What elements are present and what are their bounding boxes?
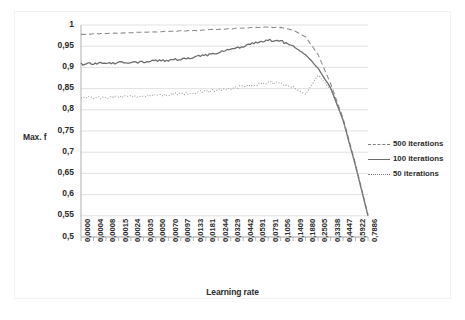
x-tick-label: 0,0244 (221, 219, 230, 242)
y-tick-label: 0,9 (28, 61, 74, 71)
x-tick-label: 0,0791 (271, 219, 280, 242)
x-tick-label: 0,0035 (146, 219, 155, 242)
x-tick-label: 0,5922 (358, 219, 367, 242)
series-line-100-iterations (81, 39, 368, 216)
legend-item-label: 50 iterations (393, 169, 439, 178)
legend-line-icon (368, 170, 390, 178)
series-line-500-iterations (81, 27, 368, 215)
chart-legend: 500 iterations100 iterations50 iteration… (368, 136, 443, 181)
x-tick-label: 0,0442 (246, 219, 255, 242)
x-tick-label: 0,1056 (283, 219, 292, 242)
x-tick-label: 0,0000 (83, 219, 92, 242)
x-tick-label: 0,0008 (108, 219, 117, 242)
x-tick-label: 0,1409 (296, 219, 305, 242)
x-tick-label: 0,0097 (183, 219, 192, 242)
legend-line-icon (368, 155, 390, 163)
x-tick-label: 0,2505 (320, 219, 329, 242)
x-tick-label: 0,0591 (258, 219, 267, 242)
y-tick-label: 0,5 (28, 231, 74, 241)
x-tick-label: 0,0070 (171, 219, 180, 242)
y-tick-label: 0,85 (28, 82, 74, 92)
y-tick-label: 0,75 (28, 125, 74, 135)
x-tick-label: 0,0181 (208, 219, 217, 242)
y-tick-label: 1 (28, 19, 74, 29)
x-tick-label: 0,4447 (345, 219, 354, 242)
x-tick-label: 0,1880 (308, 219, 317, 242)
series-line-50-iterations (81, 75, 368, 216)
y-tick-label: 0,6 (28, 188, 74, 198)
y-tick-label: 0,65 (28, 167, 74, 177)
x-tick-label: 0,0050 (158, 219, 167, 242)
y-tick-label: 0,8 (28, 103, 74, 113)
x-axis-title: Learning rate (0, 287, 465, 297)
legend-item-label: 100 iterations (393, 154, 443, 163)
x-tick-label: 0,0024 (133, 219, 142, 242)
x-tick-label: 0,0004 (96, 219, 105, 242)
legend-item[interactable]: 500 iterations (368, 136, 443, 151)
legend-item[interactable]: 100 iterations (368, 151, 443, 166)
x-tick-label: 0,0329 (233, 219, 242, 242)
legend-line-icon (368, 140, 390, 148)
x-tick-label: 0,0015 (121, 219, 130, 242)
x-tick-label: 0,7886 (370, 219, 379, 242)
y-tick-label: 0,7 (28, 146, 74, 156)
legend-item[interactable]: 50 iterations (368, 166, 443, 181)
y-tick-label: 0,55 (28, 209, 74, 219)
x-tick-label: 0,0133 (196, 219, 205, 242)
x-tick-label: 0,3338 (333, 219, 342, 242)
y-tick-label: 0,95 (28, 40, 74, 50)
legend-item-label: 500 iterations (393, 139, 443, 148)
